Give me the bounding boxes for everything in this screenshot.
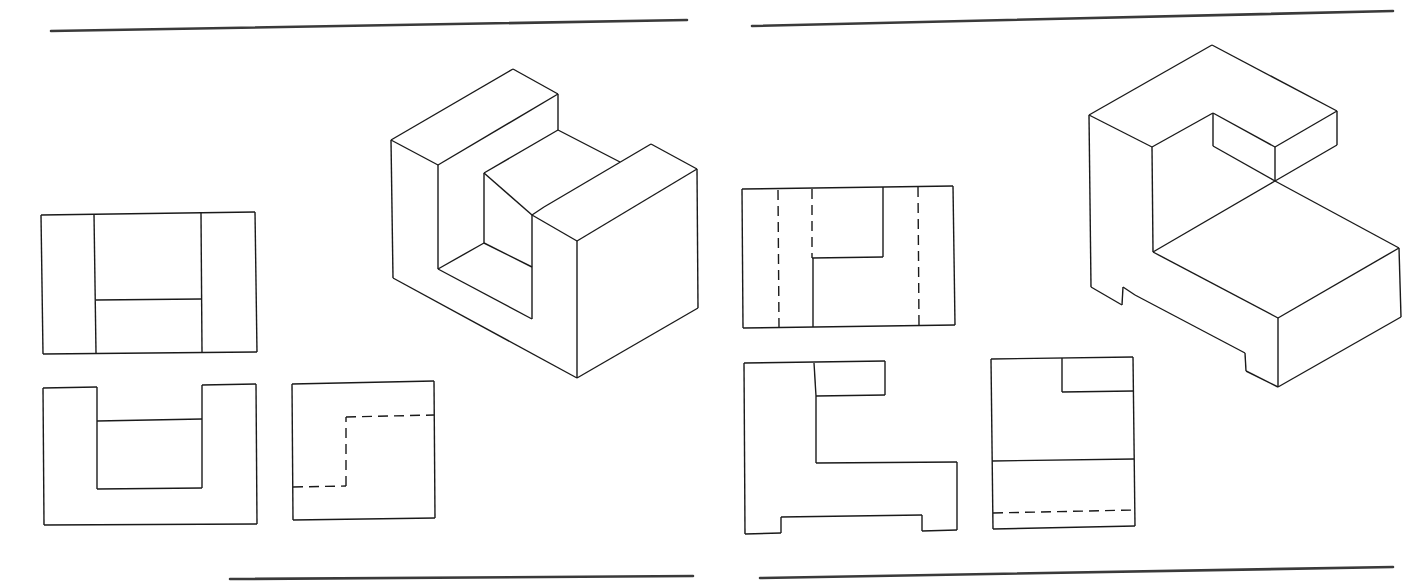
visible-edge-line (293, 518, 435, 520)
visible-edge-line (41, 215, 43, 354)
visible-edge-line (922, 530, 957, 531)
visible-edge-line (745, 533, 781, 534)
visible-edge-line (438, 269, 532, 319)
panel-object-2: Object 2 (L-shaped block with base notch… (742, 11, 1401, 578)
visible-edge-line (1213, 113, 1275, 147)
visible-edge-line (1275, 111, 1337, 147)
visible-edge-line (256, 384, 257, 524)
visible-edge-line (697, 169, 698, 308)
visible-edge-line (292, 381, 434, 384)
visible-edge-line (513, 69, 558, 94)
visible-edge-line (993, 526, 1135, 529)
visible-edge-line (97, 488, 202, 489)
visible-edge-line (1089, 115, 1091, 287)
visible-edge-line (1091, 287, 1122, 305)
visible-edge-line (484, 173, 532, 215)
visible-edge-line (438, 243, 484, 269)
visible-edge-line (1245, 353, 1246, 371)
visible-edge-line (781, 515, 922, 517)
visible-edge-line (992, 459, 1134, 461)
visible-edge-line (1089, 115, 1152, 147)
side-view: Right side view (991, 357, 1135, 529)
visible-edge-line (742, 189, 743, 328)
visible-edge-line (1153, 252, 1278, 318)
visible-edge-line (94, 214, 96, 353)
hidden-edge-dashed-line (346, 415, 434, 417)
isometric-view: Isometric view (391, 69, 698, 378)
visible-edge-line (742, 186, 953, 189)
visible-edge-line (41, 212, 255, 215)
visible-edge-line (532, 215, 577, 241)
visible-edge-line (991, 359, 993, 529)
visible-edge-line (391, 140, 393, 278)
hidden-edge-dashed-line (918, 187, 919, 325)
top-view: Top view (41, 212, 257, 354)
visible-edge-line (532, 207, 544, 215)
visible-edge-line (1122, 287, 1123, 305)
visible-edge-line (434, 381, 435, 518)
visible-edge-line (484, 130, 558, 173)
visible-edge-line (1152, 147, 1153, 252)
visible-edge-line (544, 144, 651, 207)
visible-edge-line (43, 388, 44, 525)
visible-edge-line (812, 257, 883, 258)
top-rule-line (51, 20, 687, 31)
visible-edge-line (743, 325, 955, 328)
visible-edge-line (1275, 181, 1399, 248)
visible-edge-line (97, 419, 202, 421)
bottom-rule-line (230, 576, 693, 579)
visible-edge-line (814, 363, 816, 396)
visible-edge-line (1089, 45, 1212, 115)
visible-edge-line (391, 69, 513, 140)
visible-edge-line (816, 462, 957, 463)
hidden-edge-dashed-line (778, 190, 779, 327)
visible-edge-line (577, 169, 697, 241)
visible-edge-line (816, 395, 885, 396)
technical-drawing-canvas: Object 1 (U-shaped block) Isometric view… (0, 0, 1426, 583)
front-view: Front view (43, 384, 257, 525)
bottom-rule-line (760, 567, 1393, 578)
visible-edge-line (953, 186, 955, 325)
visible-edge-line (484, 243, 532, 267)
visible-edge-line (1246, 371, 1278, 387)
isometric-view: Isometric view (1089, 45, 1401, 387)
visible-edge-line (1153, 181, 1275, 252)
visible-edge-line (1135, 295, 1245, 353)
visible-edge-line (1133, 357, 1135, 526)
visible-edge-line (43, 387, 97, 388)
visible-edge-line (391, 140, 438, 165)
visible-edge-line (651, 144, 697, 169)
visible-edge-line (96, 299, 201, 300)
visible-edge-line (43, 352, 257, 354)
front-view: Front view (744, 361, 957, 534)
visible-edge-line (1213, 146, 1275, 181)
visible-edge-line (44, 524, 257, 525)
visible-edge-line (1062, 391, 1133, 392)
side-view: Right side view (292, 381, 435, 520)
visible-edge-line (1275, 145, 1337, 181)
hidden-edge-dashed-line (293, 486, 346, 487)
visible-edge-line (1278, 317, 1401, 387)
visible-edge-line (1152, 113, 1213, 147)
visible-edge-line (558, 130, 620, 162)
top-view: Top view (742, 186, 955, 328)
visible-edge-line (577, 308, 698, 378)
visible-edge-line (292, 384, 293, 520)
visible-edge-line (393, 278, 577, 378)
visible-edge-line (744, 361, 885, 363)
visible-edge-line (1212, 45, 1337, 111)
visible-edge-line (202, 384, 256, 385)
visible-edge-line (201, 213, 202, 352)
visible-edge-line (1123, 287, 1135, 295)
hidden-edge-dashed-line (993, 510, 1135, 513)
visible-edge-line (744, 363, 745, 534)
visible-edge-line (255, 212, 257, 352)
panel-object-1: Object 1 (U-shaped block) Isometric view… (41, 20, 698, 579)
visible-edge-line (438, 94, 558, 165)
visible-edge-line (1278, 248, 1399, 318)
top-rule-line (752, 11, 1393, 26)
visible-edge-line (1399, 248, 1401, 317)
